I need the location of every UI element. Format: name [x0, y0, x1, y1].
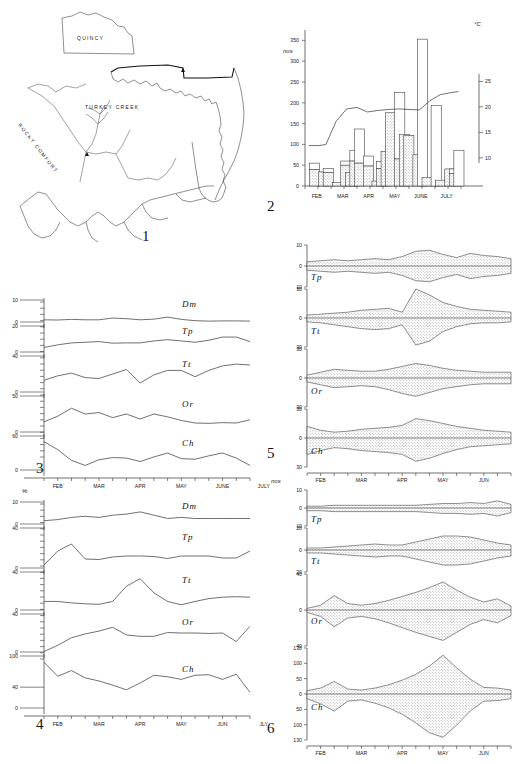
svg-text:30: 30	[296, 346, 302, 352]
svg-text:Ch: Ch	[182, 438, 195, 448]
svg-text:MAY: MAY	[176, 721, 187, 727]
svg-text:20: 20	[485, 104, 491, 110]
map-svg	[0, 0, 262, 248]
svg-text:25: 25	[485, 78, 491, 84]
svg-text:10: 10	[12, 499, 18, 505]
panel-1-map: QUINCY TURKEY CREEK ROCKY COMFORT 1	[0, 0, 262, 248]
svg-text:Tp: Tp	[182, 532, 194, 542]
svg-text:15: 15	[485, 129, 491, 135]
svg-text:10: 10	[296, 242, 302, 248]
panel2-ylabel: nos	[283, 48, 293, 54]
svg-text:JUN: JUN	[479, 750, 489, 756]
svg-text:300: 300	[290, 58, 299, 64]
florida-outline	[111, 72, 226, 202]
svg-text:Or: Or	[182, 617, 194, 627]
svg-text:JUN: JUN	[217, 721, 227, 727]
svg-text:JUNE: JUNE	[414, 193, 428, 199]
state-boundary	[111, 65, 234, 78]
svg-text:Dm: Dm	[181, 501, 197, 511]
svg-text:0: 0	[299, 375, 302, 381]
svg-text:Tp: Tp	[182, 326, 194, 336]
panel-number-1: 1	[142, 228, 150, 245]
panel4-svg: 010Dm040Tp040Tt040Or040100ChFEBMARAPRMAY…	[0, 488, 262, 743]
svg-text:40: 40	[12, 611, 18, 617]
svg-text:Or: Or	[311, 386, 323, 396]
svg-text:30: 30	[296, 406, 302, 412]
panel-number-6: 6	[267, 720, 275, 737]
svg-text:MAR: MAR	[93, 721, 105, 727]
svg-text:60: 60	[12, 433, 18, 439]
svg-text:Tp: Tp	[311, 514, 323, 524]
panel-4-percent-lines: % 010Dm040Tp040Tt040Or040100ChFEBMARAPRM…	[0, 488, 262, 743]
svg-text:10: 10	[296, 487, 302, 493]
svg-text:0: 0	[299, 607, 302, 613]
svg-text:100: 100	[293, 660, 302, 666]
svg-text:Ch: Ch	[311, 446, 324, 456]
panel-6-kite: nos 10010Tp20020Tt40040Or130100500501001…	[265, 478, 516, 748]
svg-text:APR: APR	[135, 721, 146, 727]
panel-number-3: 3	[36, 460, 44, 477]
svg-text:Ch: Ch	[311, 702, 324, 712]
svg-text:20: 20	[296, 525, 302, 531]
svg-text:Ch: Ch	[182, 664, 195, 674]
panel4-ylabel: %	[22, 488, 27, 494]
map-label-quincy: QUINCY	[77, 35, 104, 41]
panel-number-5: 5	[267, 445, 275, 462]
svg-text:350: 350	[290, 37, 299, 43]
svg-text:130: 130	[293, 737, 302, 743]
svg-text:20: 20	[12, 323, 18, 329]
svg-text:40: 40	[12, 569, 18, 575]
svg-text:10: 10	[12, 297, 18, 303]
svg-text:40: 40	[296, 571, 302, 577]
panel-2-barchart: nos °C 05010015020025030035010152025FEBM…	[265, 8, 516, 223]
svg-text:0: 0	[299, 691, 302, 697]
panel2-svg: 05010015020025030035010152025FEBMARAPRMA…	[265, 8, 516, 223]
svg-text:MAY: MAY	[389, 193, 400, 199]
svg-text:JULY: JULY	[441, 193, 454, 199]
svg-text:APR: APR	[363, 193, 374, 199]
svg-text:0: 0	[296, 183, 299, 189]
svg-text:30: 30	[296, 464, 302, 470]
panel2-y2label: °C	[474, 21, 481, 27]
svg-text:40: 40	[12, 525, 18, 531]
station-marker-north	[181, 68, 185, 72]
svg-text:APR: APR	[397, 750, 408, 756]
svg-text:150: 150	[290, 121, 299, 127]
panel-5-kite: 10010Tp30030Tt30030Or30030ChFEBMARAPRMAY…	[265, 233, 516, 473]
svg-text:50: 50	[296, 676, 302, 682]
map-label-turkey-creek: TURKEY CREEK	[85, 104, 139, 110]
panel5-svg: 10010Tp30030Tt30030Or30030ChFEBMARAPRMAY…	[265, 233, 516, 473]
svg-text:FEB: FEB	[312, 193, 323, 199]
svg-text:Dm: Dm	[181, 299, 197, 309]
svg-text:250: 250	[290, 79, 299, 85]
svg-text:Tt: Tt	[182, 359, 192, 369]
svg-text:MAY: MAY	[438, 750, 449, 756]
svg-text:0: 0	[299, 547, 302, 553]
svg-text:MAR: MAR	[337, 193, 349, 199]
svg-text:40: 40	[12, 684, 18, 690]
bay-coastline	[20, 186, 214, 226]
svg-text:50: 50	[293, 162, 299, 168]
svg-text:100: 100	[293, 722, 302, 728]
svg-text:100: 100	[290, 141, 299, 147]
svg-text:50: 50	[12, 393, 18, 399]
svg-text:0: 0	[15, 705, 18, 711]
svg-text:0: 0	[299, 263, 302, 269]
panel3-svg: 010Dm020Tp040Tt050Or060ChFEBMARAPRMAYJUN…	[0, 286, 262, 486]
svg-text:40: 40	[12, 353, 18, 359]
svg-text:30: 30	[296, 286, 302, 292]
panel6-svg: 10010Tp20020Tt40040Or13010050050100130Ch…	[265, 478, 516, 748]
panel-number-2: 2	[267, 198, 275, 215]
svg-text:200: 200	[290, 100, 299, 106]
svg-text:Tt: Tt	[311, 556, 321, 566]
svg-text:0: 0	[299, 315, 302, 321]
svg-text:0: 0	[15, 467, 18, 473]
panel6-ylabel: nos	[271, 478, 281, 484]
svg-text:0: 0	[299, 505, 302, 511]
svg-text:130: 130	[293, 645, 302, 651]
svg-text:FEB: FEB	[53, 721, 64, 727]
svg-text:Or: Or	[182, 399, 194, 409]
svg-text:10: 10	[485, 155, 491, 161]
svg-text:Tt: Tt	[311, 326, 321, 336]
svg-text:Tp: Tp	[311, 272, 323, 282]
